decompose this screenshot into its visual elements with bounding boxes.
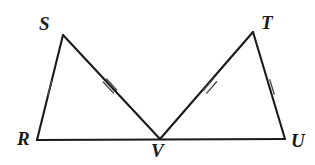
tick-RS-stroke bbox=[48, 81, 52, 96]
tick-marks-group bbox=[48, 79, 274, 95]
segment-vt bbox=[160, 32, 253, 139]
segment-tu bbox=[253, 32, 285, 139]
vertex-label-s: S bbox=[39, 14, 50, 33]
vertex-label-u: U bbox=[291, 131, 305, 150]
vertex-label-v: V bbox=[151, 141, 164, 160]
segment-sv bbox=[63, 35, 160, 139]
geometry-figure: R S V T U bbox=[0, 0, 315, 165]
segments-group bbox=[37, 32, 285, 140]
tick-RS bbox=[48, 81, 52, 96]
vertex-label-r: R bbox=[17, 129, 30, 148]
vertex-label-t: T bbox=[261, 13, 273, 32]
